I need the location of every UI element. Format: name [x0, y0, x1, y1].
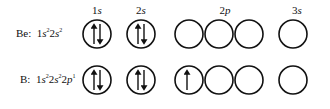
b-2p-orbital-2 — [205, 66, 233, 94]
b-2p-orbital-3 — [235, 66, 263, 94]
be-2s-orbital — [127, 20, 155, 48]
be-2p-orbital-1 — [175, 20, 203, 48]
b-1s-orbital — [83, 66, 111, 94]
b-2p-orbital-1 — [175, 66, 203, 94]
b-2s-orbital — [127, 66, 155, 94]
be-2p-orbital-3 — [235, 20, 263, 48]
b-3s-orbital — [279, 66, 307, 94]
orbital-diagram — [0, 0, 330, 109]
be-3s-orbital — [279, 20, 307, 48]
be-1s-orbital — [83, 20, 111, 48]
be-2p-orbital-2 — [205, 20, 233, 48]
